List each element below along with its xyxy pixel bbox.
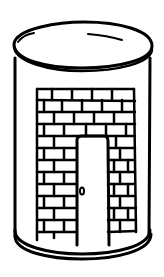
brick-wall [37,89,136,240]
doorway [77,136,109,245]
illustration-canvas: Line drawing of a cylindrical can with a… [0,0,164,277]
lid [14,22,152,71]
can-drawing [0,0,164,277]
doorknob-icon [80,188,84,195]
base-rim [15,230,151,259]
